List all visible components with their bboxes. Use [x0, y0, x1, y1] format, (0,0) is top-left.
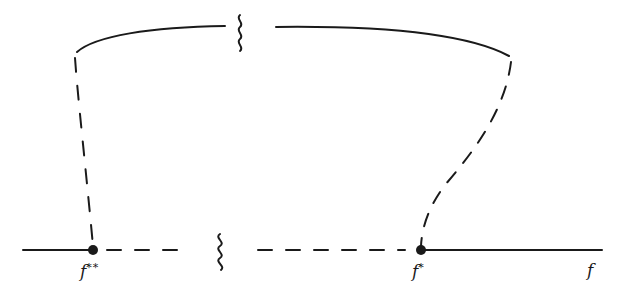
- top-break-icon: [239, 15, 242, 51]
- label-f-star: f*: [412, 262, 425, 280]
- top-curve-left: [77, 26, 225, 52]
- diagram-svg: [0, 0, 625, 290]
- diagram-canvas: f** f* f: [0, 0, 625, 290]
- point-f-star: [416, 245, 426, 255]
- label-f: f: [587, 262, 593, 279]
- baseline-break-icon: [218, 234, 222, 270]
- right-dashed-connector: [421, 62, 511, 246]
- top-curve-right: [276, 27, 509, 56]
- left-dashed-connector: [75, 58, 93, 246]
- point-f-double-star: [88, 245, 98, 255]
- label-f-double-star: f**: [80, 262, 99, 280]
